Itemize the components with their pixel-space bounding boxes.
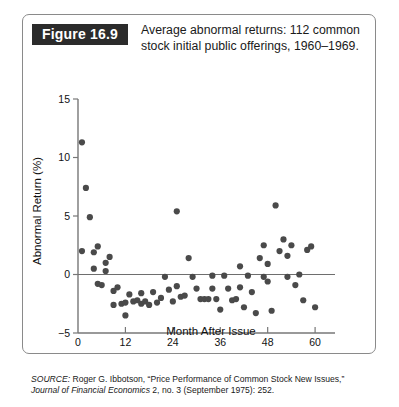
data-point: [213, 296, 219, 302]
source-line-1: SOURCE: Roger G. Ibbotson, “Price Perfor…: [31, 374, 376, 385]
data-point: [249, 289, 255, 295]
data-point: [126, 291, 132, 297]
data-point: [182, 292, 188, 298]
data-point: [265, 278, 271, 284]
data-point: [217, 307, 223, 313]
data-point: [209, 285, 215, 291]
data-point: [150, 289, 156, 295]
data-point: [205, 296, 211, 302]
figure-caption: Average abnormal returns: 112 common sto…: [141, 22, 369, 54]
data-point: [276, 248, 282, 254]
data-point: [162, 274, 168, 280]
data-point: [91, 249, 97, 255]
data-point: [103, 260, 109, 266]
data-point: [261, 242, 267, 248]
figure-header: Figure 16.9 Average abnormal returns: 11…: [23, 15, 375, 63]
source-label: SOURCE:: [31, 374, 70, 384]
data-point: [190, 274, 196, 280]
data-point: [288, 242, 294, 248]
source-line-1-text: Roger G. Ibbotson, “Price Performance of…: [70, 374, 344, 384]
data-point: [257, 255, 263, 261]
data-point: [237, 263, 243, 269]
data-point: [79, 139, 85, 145]
figure-box: Figure 16.9 Average abnormal returns: 11…: [22, 14, 376, 354]
figure-number-badge: Figure 16.9: [32, 24, 128, 45]
data-point: [114, 284, 120, 290]
source-note: SOURCE: Roger G. Ibbotson, “Price Perfor…: [31, 374, 376, 397]
data-point: [284, 274, 290, 280]
source-line-2: Journal of Financial Economics 2, no. 3 …: [31, 385, 376, 396]
data-point: [312, 304, 318, 310]
y-axis-title: Abnormal Return (%): [31, 157, 43, 265]
data-point: [245, 273, 251, 279]
data-point: [91, 266, 97, 272]
data-point: [292, 282, 298, 288]
data-point: [174, 208, 180, 214]
y-tick-label: 15: [58, 93, 70, 105]
data-point: [122, 299, 128, 305]
data-point: [233, 296, 239, 302]
y-tick-label: 10: [58, 151, 70, 163]
data-point: [296, 271, 302, 277]
data-point: [284, 253, 290, 259]
data-point: [225, 285, 231, 291]
data-point: [170, 298, 176, 304]
data-point: [79, 248, 85, 254]
data-point: [138, 290, 144, 296]
x-axis-title: Month After Issue: [166, 325, 256, 337]
data-point: [122, 312, 128, 318]
x-tick-label: 60: [309, 336, 321, 348]
data-point: [300, 297, 306, 303]
scatter-plot-svg: −5051015 01224364860 Abnormal Return (%)…: [23, 61, 377, 351]
data-point: [308, 243, 314, 249]
data-point: [193, 285, 199, 291]
source-line-2-text: 2, no. 3 (September 1975): 252.: [150, 385, 274, 395]
data-point: [221, 273, 227, 279]
data-point: [107, 254, 113, 260]
data-point: [237, 284, 243, 290]
y-axis: −5051015: [58, 93, 78, 339]
data-point: [265, 261, 271, 267]
scatter-plot: −5051015 01224364860 Abnormal Return (%)…: [23, 61, 377, 351]
x-tick-label: 48: [262, 336, 274, 348]
data-point: [253, 310, 259, 316]
data-point: [110, 302, 116, 308]
data-points: [79, 139, 318, 318]
data-point: [166, 287, 172, 293]
data-point: [158, 295, 164, 301]
x-tick-label: 36: [214, 336, 226, 348]
data-point: [87, 214, 93, 220]
x-tick-label: 24: [167, 336, 179, 348]
data-point: [280, 236, 286, 242]
y-tick-label: 0: [64, 268, 70, 280]
y-tick-label: 5: [64, 210, 70, 222]
y-tick-label: −5: [58, 327, 70, 339]
data-point: [146, 302, 152, 308]
x-tick-label: 0: [75, 336, 81, 348]
data-point: [103, 268, 109, 274]
x-tick-label: 12: [120, 336, 132, 348]
data-point: [174, 283, 180, 289]
data-point: [269, 308, 275, 314]
data-point: [99, 282, 105, 288]
source-journal-name: Journal of Financial Economics: [31, 385, 150, 395]
data-point: [241, 304, 247, 310]
data-point: [209, 273, 215, 279]
data-point: [186, 255, 192, 261]
data-point: [272, 202, 278, 208]
data-point: [83, 185, 89, 191]
data-point: [95, 243, 101, 249]
